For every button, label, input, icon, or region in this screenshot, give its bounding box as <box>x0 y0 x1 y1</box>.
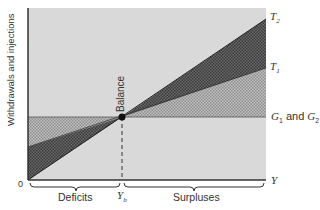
t2-label: T2 <box>270 10 280 25</box>
balance-diagram: Balance Withdrawals and injections 0 T2 … <box>0 0 320 210</box>
t1-label: T1 <box>270 60 280 75</box>
deficits-label: Deficits <box>58 191 92 203</box>
surpluses-bracket <box>124 183 264 191</box>
x-axis-label: Y <box>271 174 279 186</box>
g-label: G1 and G2 <box>271 110 319 124</box>
y-axis-label: Withdrawals and injections <box>5 13 16 126</box>
deficits-bracket <box>30 183 120 191</box>
balance-label: Balance <box>115 75 126 112</box>
origin-label: 0 <box>18 179 23 189</box>
yb-label: Yb <box>117 189 127 204</box>
balance-point <box>119 114 126 121</box>
surpluses-label: Surpluses <box>173 191 220 203</box>
